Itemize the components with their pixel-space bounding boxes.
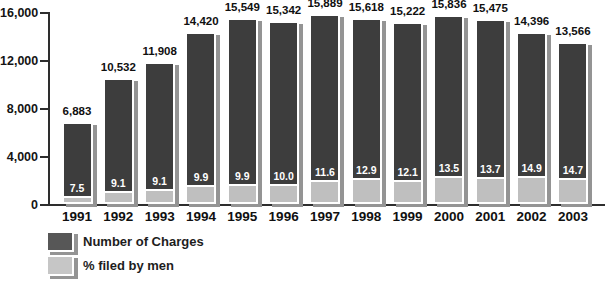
bar-1991: 7.5 — [62, 122, 93, 204]
bar-men-segment-1993 — [146, 189, 173, 202]
bar-1997: 11.6 — [309, 14, 340, 204]
y-tick-label-4,000: 4,000 — [0, 149, 38, 165]
legend-item-number-of-charges: Number of Charges — [46, 231, 204, 252]
value-label-1994: 14,420 — [171, 15, 231, 28]
legend-swatch-pct-filed-by-men — [46, 255, 74, 276]
bar-1995: 9.9 — [227, 18, 258, 204]
bar-men-segment-2000 — [435, 176, 462, 202]
y-tick-0 — [40, 204, 48, 206]
bar-2003: 14.7 — [557, 42, 588, 204]
pct-label-1994: 9.9 — [184, 171, 217, 183]
pct-label-2003: 14.7 — [556, 164, 589, 176]
bar-1999: 12.1 — [392, 22, 423, 204]
legend-item-pct-filed-by-men: % filed by men — [46, 255, 174, 276]
pct-label-1993: 9.1 — [143, 175, 176, 187]
bar-1994: 9.9 — [185, 32, 216, 204]
legend-swatch-number-of-charges — [46, 231, 74, 252]
bar-men-segment-1994 — [187, 185, 214, 202]
bar-1993: 9.1 — [144, 62, 175, 204]
y-tick-16,000 — [40, 12, 48, 14]
bar-1996: 10.0 — [268, 21, 299, 204]
bar-men-segment-1997 — [311, 180, 338, 202]
charges-by-year-bar-chart: 16,00012,0008,0004,0000 7.56,8839.110,53… — [0, 0, 610, 288]
legend-label-number-of-charges: Number of Charges — [83, 234, 204, 249]
bar-men-segment-2003 — [559, 178, 586, 202]
value-label-1993: 11,908 — [130, 45, 190, 58]
y-tick-12,000 — [40, 60, 48, 62]
pct-label-1999: 12.1 — [391, 166, 424, 178]
y-tick-label-16,000: 16,000 — [0, 5, 38, 21]
y-tick-label-8,000: 8,000 — [0, 101, 38, 117]
pct-label-1997: 11.6 — [308, 166, 341, 178]
bar-men-segment-1999 — [394, 180, 421, 202]
bar-1992: 9.1 — [103, 78, 134, 204]
bar-men-segment-1992 — [105, 191, 132, 202]
pct-label-1992: 9.1 — [102, 177, 135, 189]
pct-label-1995: 9.9 — [226, 170, 259, 182]
bar-men-segment-1998 — [353, 178, 380, 202]
legend-label-pct-filed-by-men: % filed by men — [83, 258, 174, 273]
bar-men-segment-1991 — [64, 196, 91, 202]
bar-2002: 14.9 — [516, 32, 547, 204]
x-axis-line — [41, 204, 605, 206]
value-label-1991: 6,883 — [47, 105, 107, 118]
value-label-1992: 10,532 — [88, 61, 148, 74]
pct-label-2000: 13.5 — [432, 162, 465, 174]
bar-men-segment-2001 — [477, 177, 504, 202]
pct-label-2002: 14.9 — [515, 162, 548, 174]
y-tick-4,000 — [40, 156, 48, 158]
x-label-2003: 2003 — [543, 209, 603, 224]
plot-area: 7.56,8839.110,5329.111,9089.914,4209.915… — [49, 13, 605, 204]
bar-2001: 13.7 — [475, 19, 506, 204]
pct-label-1998: 12.9 — [350, 164, 383, 176]
bar-men-segment-1996 — [270, 184, 297, 202]
pct-label-1996: 10.0 — [267, 170, 300, 182]
bar-1998: 12.9 — [351, 18, 382, 204]
y-tick-label-0: 0 — [0, 197, 38, 213]
bar-men-segment-2002 — [518, 176, 545, 202]
pct-label-2001: 13.7 — [474, 163, 507, 175]
bar-men-segment-1995 — [229, 184, 256, 202]
value-label-2003: 13,566 — [543, 25, 603, 38]
y-tick-label-12,000: 12,000 — [0, 53, 38, 69]
pct-label-1991: 7.5 — [61, 182, 94, 194]
value-label-2001: 15,475 — [460, 2, 520, 15]
bar-2000: 13.5 — [433, 15, 464, 204]
